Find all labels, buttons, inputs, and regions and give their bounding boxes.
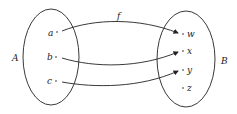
set-b-ellipse (157, 11, 215, 107)
function-label: f (116, 11, 122, 21)
element-b: b (47, 52, 53, 62)
element-z: z (186, 83, 192, 93)
element-w: w (187, 29, 195, 39)
arrow-a-to-w (62, 21, 178, 33)
element-x: x (187, 46, 192, 56)
set-b-label: B (220, 56, 228, 66)
function-diagram: A B f a b c w x y z (0, 0, 237, 114)
element-a: a (48, 28, 53, 38)
set-a-label: A (11, 53, 19, 63)
element-y: y (186, 65, 193, 75)
element-c: c (47, 76, 52, 86)
